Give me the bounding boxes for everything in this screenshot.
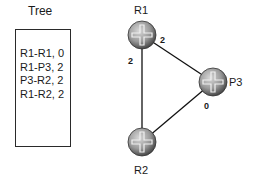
router-icon-r2 [128, 128, 156, 156]
cost-p3-r2: 0 [204, 101, 209, 111]
node-label-r1: R1 [134, 4, 148, 16]
cost-r1-r2: 2 [128, 56, 133, 66]
network-topology [0, 0, 259, 183]
router-icon-p3 [199, 68, 227, 96]
node-label-r2: R2 [134, 164, 148, 176]
node-label-p3: P3 [229, 76, 242, 88]
cost-r1-p3: 2 [160, 35, 165, 45]
router-icon-r1 [128, 21, 156, 49]
